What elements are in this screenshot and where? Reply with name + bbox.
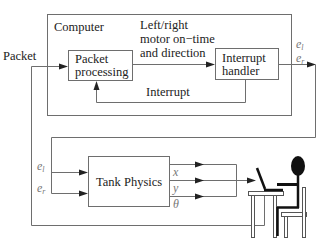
tank-input-el-label: el — [37, 159, 45, 174]
packet-processing-label-line2: processing — [75, 65, 129, 79]
output-theta-label: θ — [173, 197, 179, 211]
output-y-label: y — [172, 181, 179, 195]
command-label-line2: motor on−time — [140, 32, 215, 46]
output-y-arrow-head — [195, 178, 204, 184]
chair-front-leg — [285, 217, 288, 238]
chair-back — [303, 188, 306, 238]
interrupt-handler-label-line2: handler — [222, 64, 260, 78]
command-label-line1: Left/right — [140, 18, 188, 32]
laptop-screen — [257, 168, 265, 189]
interrupt-label: Interrupt — [146, 85, 190, 99]
output-theta-arrow-head — [195, 194, 204, 200]
computer-label: Computer — [54, 20, 105, 34]
motor-output-arrow-head — [307, 62, 316, 68]
el-input-arrow-head — [79, 170, 88, 176]
command-label-line3: and direction — [140, 46, 206, 60]
output-x-arrow-head — [195, 162, 204, 168]
display-arrow-head — [247, 178, 256, 184]
output-x-label: x — [172, 165, 179, 179]
packet-processing-label-line1: Packet — [75, 52, 109, 66]
er-input-arrow-head — [79, 191, 88, 197]
tank-input-er-label: er — [37, 181, 46, 196]
interrupt-handler-label-line1: Interrupt — [222, 51, 266, 65]
output-el-label: el — [296, 37, 304, 52]
desk-leg-right — [274, 196, 277, 238]
desk-leg-left — [252, 196, 255, 238]
output-er-label: er — [296, 51, 305, 66]
control-loop-diagram: Computer Left/right motor on−time and di… — [0, 0, 329, 250]
desk-top — [249, 192, 284, 196]
packet-input-label: Packet — [3, 49, 37, 63]
person-head — [291, 156, 305, 176]
tank-physics-label: Tank Physics — [96, 175, 162, 189]
